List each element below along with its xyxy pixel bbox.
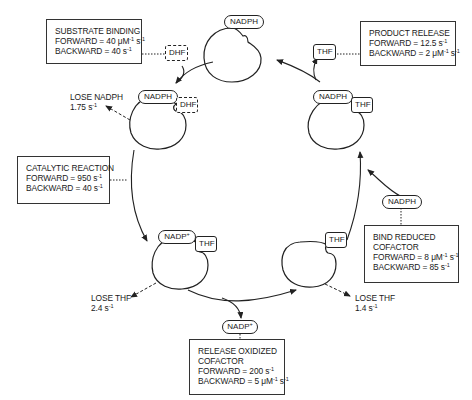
catalytic-reaction-title: CATALYTIC REACTION <box>26 163 101 173</box>
lower-left-nadp-pill: NADP+ <box>158 230 196 244</box>
arrow-lose-thf-left <box>131 283 156 297</box>
substrate-binding-backward: BACKWARD = 40 s-1 <box>55 46 133 56</box>
bind-reduced-backward: BACKWARD = 85 s-1 <box>373 262 450 272</box>
lower-right-thf-tag: THF <box>325 232 347 248</box>
free-dhf-tag: DHF <box>165 45 188 61</box>
arrow-catalytic <box>131 150 147 241</box>
bind-reduced-title-2: COFACTOR <box>373 242 450 252</box>
top-nadph-pill: NADPH <box>224 15 264 29</box>
lower-left-thf-tag: THF <box>195 236 217 252</box>
product-release-forward: FORWARD = 12.5 s-1 <box>369 38 447 48</box>
bind-reduced-forward: FORWARD = 8 μM-1 s-1 <box>373 252 450 262</box>
catalytic-reaction-backward: BACKWARD = 40 s-1 <box>26 183 101 193</box>
release-oxidized-title-2: COFACTOR <box>198 356 276 366</box>
substrate-binding-title: SUBSTRATE BINDING <box>55 26 133 36</box>
arrow-bind-reduced <box>347 152 360 240</box>
free-nadp-pill: NADP+ <box>222 320 258 334</box>
release-oxidized-forward: FORWARD = 200 s-1 <box>198 366 276 376</box>
bind-reduced-title-1: BIND REDUCED <box>373 232 450 242</box>
substrate-binding-box: SUBSTRATE BINDING FORWARD = 40 μM-1 s-1 … <box>46 19 142 64</box>
enzyme-top <box>204 28 261 82</box>
product-release-backward: BACKWARD = 2 μM-1 s-1 <box>369 48 447 58</box>
release-oxidized-title-1: RELEASE OXIDIZED <box>198 346 276 356</box>
release-oxidized-backward: BACKWARD = 5 μM-1 s-1 <box>198 376 276 386</box>
free-nadph-pill: NADPH <box>382 195 422 209</box>
lose-nadph-label: LOSE NADPH 1.75 s-1 <box>70 92 123 112</box>
product-release-box: PRODUCT RELEASE FORWARD = 12.5 s-1 BACKW… <box>360 21 456 66</box>
upper-right-nadph-pill: NADPH <box>313 90 353 104</box>
arrow-thf-out <box>314 58 317 80</box>
lose-thf-left-label: LOSE THF 2.4 s-1 <box>91 293 131 313</box>
free-thf-tag: THF <box>313 44 336 60</box>
upper-right-thf-tag: THF <box>351 97 373 113</box>
arrow-lose-thf-right <box>325 284 350 296</box>
release-oxidized-cofactor-box: RELEASE OXIDIZED COFACTOR FORWARD = 200 … <box>189 339 285 395</box>
arrow-nadph-in <box>368 170 402 197</box>
catalytic-reaction-forward: FORWARD = 950 s-1 <box>26 173 101 183</box>
bind-reduced-cofactor-box: BIND REDUCED COFACTOR FORWARD = 8 μM-1 s… <box>364 225 459 283</box>
arrow-dhf-join <box>176 66 184 83</box>
lose-thf-right-label: LOSE THF 1.4 s-1 <box>355 293 395 313</box>
substrate-binding-forward: FORWARD = 40 μM-1 s-1 <box>55 36 133 46</box>
catalytic-reaction-box: CATALYTIC REACTION FORWARD = 950 s-1 BAC… <box>17 156 110 204</box>
product-release-title: PRODUCT RELEASE <box>369 28 447 38</box>
upper-left-nadph-pill: NADPH <box>138 90 178 104</box>
arrow-release-oxidized <box>188 290 296 301</box>
enzyme-lower-right <box>282 241 336 287</box>
upper-left-dhf-tag: DHF <box>176 97 198 113</box>
